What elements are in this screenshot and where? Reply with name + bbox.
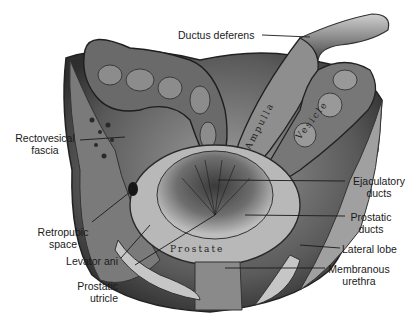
label-membranous-urethra: Membranous urethra xyxy=(326,263,392,287)
label-rectovesical-fascia-line2: fascia xyxy=(12,144,78,156)
label-membranous-urethra-line2: urethra xyxy=(326,275,392,287)
prostate-cut-surface xyxy=(157,151,273,239)
label-ductus-deferens: Ductus deferens xyxy=(178,29,254,41)
label-levator-ani: Levator ani xyxy=(52,255,118,267)
label-lateral-lobe-text: Lateral lobe xyxy=(342,243,397,255)
label-retropubic-space-line1: Retropubic xyxy=(34,226,92,238)
label-ductus-deferens-text: Ductus deferens xyxy=(178,29,254,41)
label-prostatic-utricle: Prostatic utricle xyxy=(62,280,118,304)
label-ejaculatory-ducts: Ejaculatory ducts xyxy=(346,175,412,199)
label-ejaculatory-ducts-line1: Ejaculatory xyxy=(346,175,412,187)
label-retropubic-space: Retropubic space xyxy=(34,226,92,250)
prostate-inline-label: Prostate xyxy=(170,244,224,254)
label-prostatic-utricle-line1: Prostatic xyxy=(62,280,118,292)
label-rectovesical-fascia: Rectovesical fascia xyxy=(12,132,78,156)
retropubic-opening xyxy=(128,182,138,196)
label-retropubic-space-line2: space xyxy=(34,238,92,250)
label-prostatic-ducts-line2: ducts xyxy=(346,223,396,235)
label-prostatic-ducts: Prostatic ducts xyxy=(346,211,396,235)
label-membranous-urethra-line1: Membranous xyxy=(326,263,392,275)
membranous-urethra-tissue xyxy=(195,262,242,310)
leader-ductus-deferens xyxy=(262,35,310,37)
label-rectovesical-fascia-line1: Rectovesical xyxy=(12,132,78,144)
label-ejaculatory-ducts-line2: ducts xyxy=(346,187,412,199)
label-prostatic-utricle-line2: utricle xyxy=(62,292,118,304)
label-levator-ani-text: Levator ani xyxy=(52,255,118,267)
label-prostatic-ducts-line1: Prostatic xyxy=(346,211,396,223)
label-lateral-lobe: Lateral lobe xyxy=(342,243,397,255)
